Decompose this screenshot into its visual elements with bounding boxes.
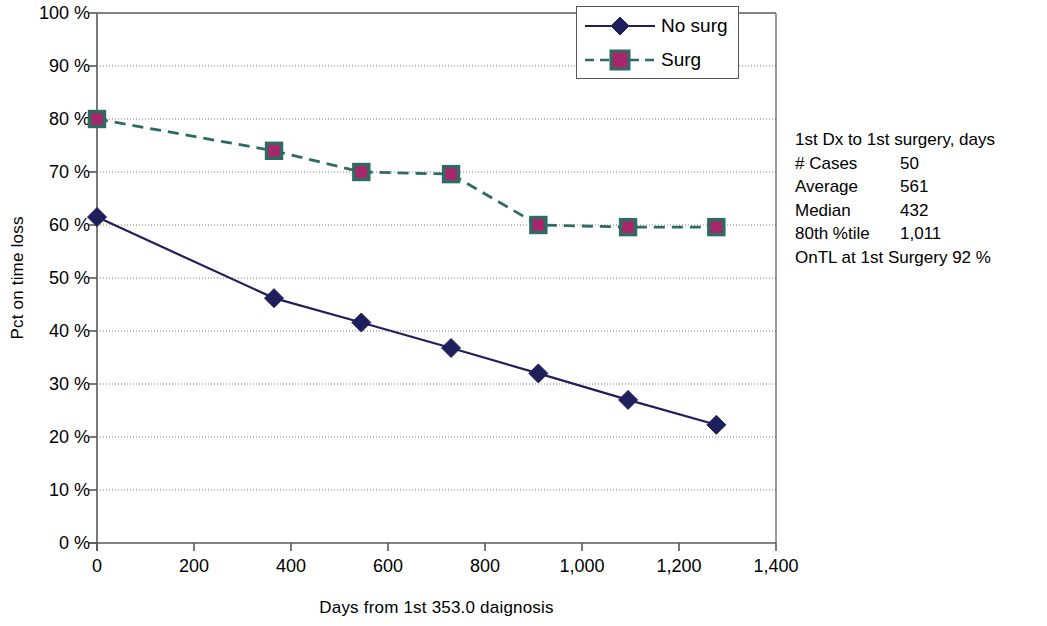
stats-footer-row: OnTL at 1st Surgery 92 % (795, 246, 1040, 270)
x-tick-label: 800 (440, 556, 530, 576)
x-axis-title: Days from 1st 353.0 daignosis (97, 598, 776, 618)
x-tick-label: 600 (343, 556, 433, 576)
data-point-marker (267, 143, 282, 158)
x-tick-label: 1,000 (537, 556, 627, 576)
data-point-marker (529, 364, 548, 383)
legend-swatch-no-surg (583, 9, 657, 43)
stats-label: Average (795, 175, 858, 199)
series-line-no-surg (97, 217, 716, 425)
series-line-surg (97, 119, 716, 227)
stats-row: 80th %tile 1,011 (795, 222, 1040, 246)
x-tick-label: 0 (52, 556, 142, 576)
x-tick-label: 1,400 (731, 556, 821, 576)
data-point-marker (444, 167, 459, 182)
axis-ticks (89, 13, 776, 551)
stats-label: # Cases (795, 152, 857, 176)
data-series-layer (88, 112, 726, 435)
x-axis-tick-labels: 02004006008001,0001,2001,400 (0, 556, 820, 584)
x-tick-label: 1,200 (634, 556, 724, 576)
data-point-marker (619, 390, 638, 409)
x-tick-label: 200 (149, 556, 239, 576)
stats-row: Average 561 (795, 175, 1040, 199)
stats-panel-title: 1st Dx to 1st surgery, days (795, 128, 1040, 152)
axis-lines (89, 13, 776, 551)
gridlines (97, 66, 776, 490)
stats-value: 50 (900, 152, 919, 176)
chart-legend: No surg Surg (576, 6, 739, 79)
plot-area (0, 0, 1047, 626)
data-point-marker (88, 208, 107, 227)
legend-swatch-surg (583, 43, 657, 77)
data-point-marker (709, 220, 724, 235)
legend-label-surg: Surg (661, 48, 701, 72)
stats-label: 80th %tile (795, 222, 870, 246)
stats-row: # Cases 50 (795, 152, 1040, 176)
data-point-marker (265, 289, 284, 308)
x-tick-label: 400 (246, 556, 336, 576)
data-point-marker (442, 338, 461, 357)
legend-item-no-surg: No surg (577, 9, 738, 43)
data-point-marker (354, 165, 369, 180)
data-point-marker (621, 220, 636, 235)
legend-label-no-surg: No surg (661, 14, 728, 38)
data-point-marker (531, 218, 546, 233)
stats-footer: OnTL at 1st Surgery 92 % (795, 248, 991, 267)
data-point-marker (352, 313, 371, 332)
stats-label: Median (795, 199, 851, 223)
data-point-marker (707, 415, 726, 434)
stats-row: Median 432 (795, 199, 1040, 223)
stats-panel: 1st Dx to 1st surgery, days # Cases 50 A… (795, 128, 1040, 269)
legend-item-surg: Surg (577, 43, 738, 77)
data-point-marker (90, 112, 105, 127)
stats-value: 432 (900, 199, 928, 223)
stats-value: 1,011 (900, 222, 941, 246)
chart-figure: Pct on time loss 0 %10 %20 %30 %40 %50 %… (0, 0, 1047, 626)
stats-value: 561 (900, 175, 928, 199)
